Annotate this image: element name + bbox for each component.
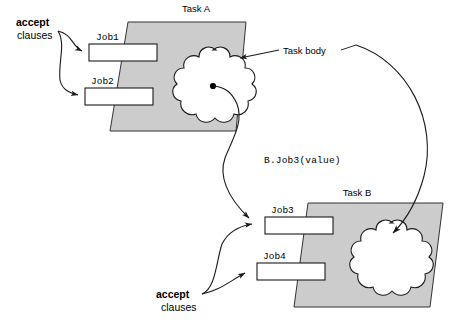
- task-body-label: Task body: [283, 45, 326, 56]
- task-body-right-leader: [341, 45, 356, 50]
- task-a-label: Task A: [182, 3, 211, 14]
- diagram-canvas: Task A Job1 Job2 Task B: [0, 0, 454, 327]
- job2-label: Job2: [91, 76, 114, 87]
- entry-call-label: B.Job3(value): [264, 155, 341, 166]
- accept-bottom-clauses-word: clauses: [161, 301, 197, 313]
- accept-top-clauses-word: clauses: [17, 29, 53, 41]
- job1-box: [89, 44, 157, 61]
- task-body-annotation: Task body: [240, 45, 326, 58]
- job4-label: Job4: [263, 251, 286, 262]
- accept-top-arrow-to-job2: [58, 31, 78, 95]
- task-b-label: Task B: [343, 187, 372, 198]
- task-a-group: Task A Job1 Job2: [85, 3, 256, 131]
- task-b-group: Task B Job3 Job4: [257, 187, 443, 307]
- concurrency-task-diagram: Task A Job1 Job2 Task B: [0, 0, 454, 327]
- accept-clauses-top-annotation: accept clauses: [16, 16, 82, 95]
- job3-box: [265, 217, 333, 234]
- job2-box: [85, 88, 153, 105]
- accept-top-keyword: accept: [16, 16, 50, 28]
- job4-box: [257, 263, 325, 280]
- job1-label: Job1: [96, 32, 119, 43]
- task-body-leader-arrow: [240, 50, 279, 58]
- accept-clauses-bottom-annotation: accept clauses: [156, 224, 252, 313]
- accept-bottom-arrow-to-job4: [202, 273, 245, 294]
- accept-bottom-keyword: accept: [156, 288, 190, 300]
- job3-label: Job3: [271, 205, 294, 216]
